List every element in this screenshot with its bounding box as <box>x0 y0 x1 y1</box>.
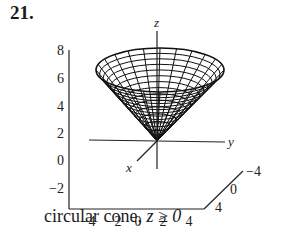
y-tick: 0 <box>230 182 237 197</box>
z-tick: 2 <box>57 126 64 141</box>
cone-surface <box>96 48 224 141</box>
z-tick: 4 <box>57 99 64 114</box>
cone-plot: 8 6 4 2 0 −2 −4 −2 0 2 4 −4 0 4 z y x <box>0 0 290 240</box>
z-axis-label: z <box>153 15 159 30</box>
z-tick: 6 <box>57 71 64 86</box>
figure-caption: circular cone, z ≥ 0 <box>44 206 181 227</box>
z-tick: −2 <box>49 181 64 196</box>
axes <box>89 31 225 169</box>
caption-condition: z ≥ 0 <box>146 206 181 226</box>
y-tick: 4 <box>215 200 222 215</box>
x-axis-label: x <box>125 160 132 175</box>
z-tick: 0 <box>57 153 64 168</box>
y-axis-label: y <box>226 134 234 149</box>
x-axis <box>137 141 157 161</box>
z-tick-labels: 8 6 4 2 0 −2 <box>49 43 64 196</box>
x-tick: 4 <box>186 214 193 229</box>
y-tick: −4 <box>246 164 261 179</box>
depth-tick-labels: −4 0 4 <box>215 164 261 215</box>
z-tick: 8 <box>57 43 64 58</box>
caption-text: circular cone, <box>44 206 146 226</box>
